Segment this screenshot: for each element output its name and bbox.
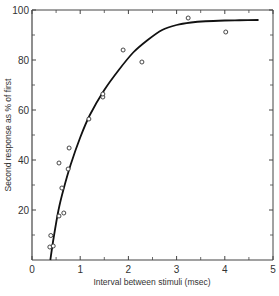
fitted-curve	[50, 20, 258, 260]
data-point	[121, 48, 125, 52]
x-axis-label: Interval between stimuli (msec)	[93, 277, 210, 287]
data-point	[66, 167, 70, 171]
chart: 012345 20406080100 Interval between stim…	[0, 0, 279, 296]
fitted-curve-layer	[50, 20, 258, 260]
data-point	[57, 161, 61, 165]
data-point	[87, 117, 91, 121]
data-points-layer	[48, 16, 228, 249]
data-point	[51, 244, 55, 248]
data-point	[224, 30, 228, 34]
data-point	[140, 60, 144, 64]
y-tick-label: 20	[18, 205, 30, 216]
y-axis-ticks: 20406080100	[12, 5, 273, 235]
plot-frame	[32, 10, 273, 260]
y-axis-label: Second response as % of first	[3, 78, 13, 192]
data-point	[62, 211, 66, 215]
x-axis-ticks: 012345	[29, 10, 276, 275]
data-point	[49, 234, 53, 238]
y-tick-label: 40	[18, 155, 30, 166]
data-point	[67, 146, 71, 150]
x-tick-label: 2	[126, 264, 132, 275]
y-tick-label: 60	[18, 105, 30, 116]
x-tick-label: 5	[270, 264, 276, 275]
y-tick-label: 80	[18, 55, 30, 66]
x-tick-label: 3	[174, 264, 180, 275]
y-tick-label: 100	[12, 5, 29, 16]
x-tick-label: 0	[29, 264, 35, 275]
data-point	[186, 16, 190, 20]
data-point	[60, 186, 64, 190]
data-point	[57, 214, 61, 218]
x-tick-label: 4	[222, 264, 228, 275]
x-tick-label: 1	[77, 264, 83, 275]
data-point	[101, 92, 105, 96]
